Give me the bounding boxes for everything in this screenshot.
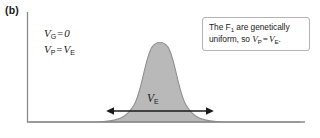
plot-area	[0, 0, 320, 138]
distribution-curve	[30, 43, 300, 123]
ve-label-variable: VE	[147, 92, 159, 104]
ve-arrow-label: VE	[147, 92, 159, 104]
figure-panel-b: (b) VG=0 VP=VE The F1 are genetically un…	[0, 0, 320, 138]
